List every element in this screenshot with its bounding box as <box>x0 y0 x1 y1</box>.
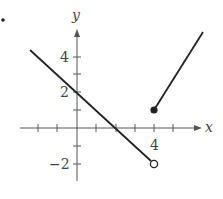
line-segment-decreasing <box>30 50 151 161</box>
filled-dot-endpoint <box>150 106 157 113</box>
x-axis: x 4 <box>20 119 213 153</box>
line-segment-increasing <box>154 32 203 110</box>
y-axis-arrow-icon <box>74 29 80 37</box>
y-tick-label-2: 2 <box>60 84 69 100</box>
x-axis-arrow-icon <box>194 125 202 131</box>
y-tick-label-neg2: −2 <box>49 156 70 172</box>
y-tick-label-4: 4 <box>60 49 69 65</box>
y-axis-label: y <box>71 7 81 23</box>
stray-dot <box>1 18 5 22</box>
x-tick-label-4: 4 <box>150 137 159 153</box>
piecewise-function-graph: x 4 y 4 2 −2 <box>0 0 223 199</box>
y-axis: y 4 2 −2 <box>49 7 81 181</box>
open-circle-endpoint <box>150 160 157 167</box>
x-axis-label: x <box>205 119 213 135</box>
